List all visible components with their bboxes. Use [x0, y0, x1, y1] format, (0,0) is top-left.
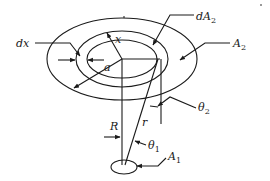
theta2-tick: [150, 106, 158, 107]
label-r: r: [142, 116, 148, 129]
label-R: R: [109, 120, 118, 133]
label-x: x: [115, 33, 122, 46]
label-A2-main: A: [232, 37, 241, 50]
label-A1-main: A: [167, 150, 176, 163]
label-A1-sub: 1: [176, 156, 181, 165]
label-dA2-main: dA: [196, 10, 211, 23]
label-A1: A1: [167, 150, 181, 165]
label-theta1: θ1: [148, 139, 160, 154]
a1-leader: [137, 158, 166, 166]
label-theta1-sub: 1: [155, 145, 160, 154]
theta2-leader: [158, 97, 196, 108]
label-dx: dx: [16, 37, 30, 50]
area-a1: [111, 160, 137, 174]
da2-leader: [153, 15, 194, 45]
label-theta2: θ2: [198, 101, 210, 116]
view-factor-diagram: dx x a dA2 A2 θ2 R r θ1 A1: [0, 0, 270, 181]
dx-leader: [35, 43, 80, 56]
label-dA2: dA2: [196, 10, 216, 25]
label-A2-sub: 2: [241, 43, 246, 52]
label-dA2-sub: 2: [211, 16, 216, 25]
corner-dot: [260, 4, 262, 6]
theta1-arrow: [135, 141, 146, 145]
label-A2: A2: [232, 37, 246, 52]
radius-a-arrow: [74, 59, 122, 88]
label-a: a: [104, 61, 111, 74]
a2-leader: [180, 43, 230, 60]
label-theta2-sub: 2: [205, 107, 210, 116]
